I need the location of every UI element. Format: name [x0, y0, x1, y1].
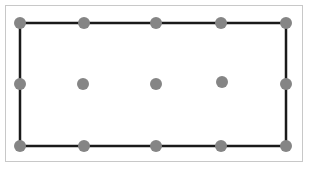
dot-11 — [78, 140, 90, 152]
dot-3 — [215, 17, 227, 29]
dot-13 — [215, 140, 227, 152]
dot-2 — [150, 17, 162, 29]
dot-4 — [280, 17, 292, 29]
dots-group — [14, 17, 292, 152]
dot-9 — [280, 78, 292, 90]
dot-8 — [216, 76, 228, 88]
dot-14 — [280, 140, 292, 152]
dot-1 — [78, 17, 90, 29]
dot-5 — [14, 78, 26, 90]
dot-10 — [14, 140, 26, 152]
dot-grid-diagram — [0, 0, 310, 172]
dot-6 — [77, 78, 89, 90]
dot-7 — [150, 78, 162, 90]
dot-12 — [150, 140, 162, 152]
dot-0 — [14, 17, 26, 29]
